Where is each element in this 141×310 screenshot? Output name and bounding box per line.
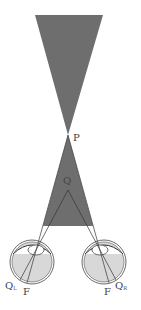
left-eye bbox=[10, 240, 54, 284]
label-p: P bbox=[73, 132, 80, 143]
label-right-fovea: F bbox=[104, 286, 111, 297]
right-eye bbox=[82, 240, 126, 284]
label-left-fovea: F bbox=[23, 286, 30, 297]
far-region bbox=[35, 15, 103, 135]
label-qr: QR bbox=[115, 280, 127, 291]
label-q: Q bbox=[63, 175, 71, 186]
label-ql: QL bbox=[5, 280, 17, 291]
binocular-vision-diagram: P Q QL F F QR bbox=[0, 0, 141, 310]
